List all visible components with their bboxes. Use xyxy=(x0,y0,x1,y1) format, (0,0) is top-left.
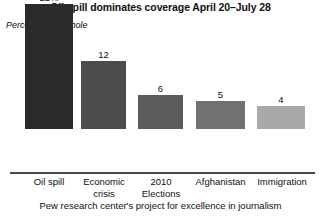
bar-group-afghanistan: 5 xyxy=(196,101,245,129)
bar-value-label: 4 xyxy=(278,94,283,105)
bar-group-economic-crisis: 12 xyxy=(81,61,126,129)
bar-value-label: 22% xyxy=(39,0,58,3)
bar-value-label: 5 xyxy=(218,89,223,100)
plot-area: 22% 12 6 5 4 xyxy=(0,0,321,176)
bar-group-2010-elections: 6 xyxy=(138,95,183,129)
x-axis-line xyxy=(10,172,315,174)
bar-oil-spill xyxy=(25,4,73,129)
source-note: Pew research center's project for excell… xyxy=(0,200,321,211)
tick-line: Elections xyxy=(128,188,194,200)
bar-value-label: 6 xyxy=(158,83,163,94)
bar-group-immigration: 4 xyxy=(257,106,305,129)
tick-line: Immigration xyxy=(247,176,317,188)
bar-group-oil-spill: 22% xyxy=(25,4,73,129)
bar-chart-figure: Oil spill dominates coverage April 20–Ju… xyxy=(0,0,321,220)
bar-economic-crisis xyxy=(81,61,126,129)
bar-2010-elections xyxy=(138,95,183,129)
bar-afghanistan xyxy=(196,101,245,129)
bar-immigration xyxy=(257,106,305,129)
x-tick-label-immigration: Immigration xyxy=(247,176,317,188)
bar-value-label: 12 xyxy=(98,49,109,60)
